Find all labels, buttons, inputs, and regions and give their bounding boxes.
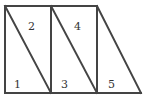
triangle-strip-diagram: 12345 xyxy=(0,0,144,102)
diagram-lines xyxy=(5,6,141,93)
diagonal-3 xyxy=(97,6,141,93)
triangle-label-1: 1 xyxy=(14,78,21,91)
triangle-label-5: 5 xyxy=(108,78,115,91)
triangle-label-3: 3 xyxy=(61,78,68,91)
triangle-label-2: 2 xyxy=(28,20,35,33)
triangle-label-4: 4 xyxy=(74,20,81,33)
